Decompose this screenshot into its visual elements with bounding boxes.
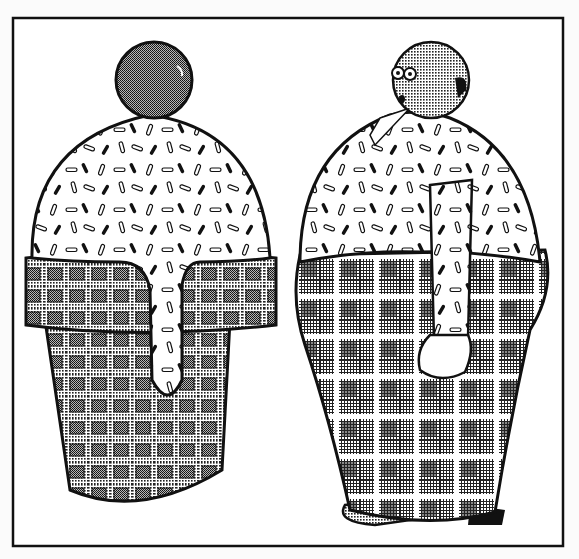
- hand: [419, 335, 471, 378]
- mouth: [399, 95, 405, 103]
- arm: [430, 180, 472, 340]
- cherry: [116, 42, 192, 118]
- illustration: [0, 0, 579, 559]
- waffle-cone: [45, 320, 230, 501]
